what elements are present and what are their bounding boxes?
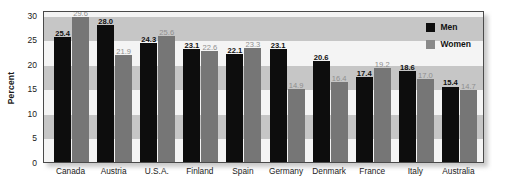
x-axis-label-usa: U.S.A. — [145, 166, 169, 176]
bar-men-spain — [226, 54, 243, 162]
y-axis-tick-label: 20 — [28, 60, 37, 70]
bar-value-label: 21.9 — [116, 47, 131, 56]
bar-women-france — [374, 68, 391, 162]
bar-men-australia — [442, 87, 459, 163]
y-axis-title: Percent — [0, 0, 22, 175]
y-axis-title-text: Percent — [6, 71, 16, 104]
bar-men-finland — [183, 49, 200, 162]
bar-women-spain — [244, 48, 261, 162]
legend-label-women: Women — [440, 39, 471, 49]
legend-swatch-women-icon — [426, 40, 435, 49]
bar-value-label: 25.6 — [159, 28, 174, 37]
legend: Men Women — [426, 22, 471, 49]
plot-area: 25.429.628.021.924.325.623.122.622.123.3… — [43, 11, 484, 163]
y-axis-tick-label: 15 — [28, 84, 37, 94]
bar-value-label: 29.6 — [73, 11, 88, 18]
bar-value-label: 23.1 — [184, 41, 199, 50]
x-axis-label-france: France — [359, 166, 385, 176]
x-axis-label-denmark: Denmark — [312, 166, 346, 176]
y-axis-tick-labels: 051015202530 — [20, 11, 40, 163]
x-axis-label-italy: Italy — [408, 166, 423, 176]
bar-men-germany — [270, 49, 287, 162]
bar-value-label: 17.0 — [418, 71, 433, 80]
bar-value-label: 28.0 — [98, 17, 113, 26]
x-axis-label-australia: Australia — [442, 166, 474, 176]
bar-value-label: 14.7 — [461, 82, 476, 91]
x-axis-label-austria: Austria — [101, 166, 127, 176]
bar-value-label: 22.6 — [202, 43, 217, 52]
bar-women-australia — [460, 90, 477, 162]
bar-value-label: 19.2 — [375, 60, 390, 69]
x-axis-label-germany: Germany — [269, 166, 303, 176]
bar-women-italy — [417, 79, 434, 162]
y-axis-tick-label: 30 — [28, 11, 37, 21]
bar-value-label: 20.6 — [314, 53, 329, 62]
y-axis-tick-label: 5 — [32, 133, 37, 143]
x-axis-label-spain: Spain — [232, 166, 253, 176]
legend-swatch-men-icon — [426, 23, 435, 32]
bar-value-label: 14.9 — [289, 81, 304, 90]
bar-value-label: 25.4 — [55, 29, 70, 38]
legend-label-men: Men — [440, 22, 457, 32]
bar-women-austria — [115, 55, 132, 162]
bar-men-italy — [399, 71, 416, 162]
bar-men-canada — [54, 37, 71, 162]
bars-layer: 25.429.628.021.924.325.623.122.622.123.3… — [44, 12, 483, 162]
x-axis-label-canada: Canada — [56, 166, 85, 176]
bar-chart: Percent 051015202530 25.429.628.021.924.… — [0, 0, 508, 194]
bar-men-austria — [97, 25, 114, 162]
bar-value-label: 23.1 — [271, 41, 286, 50]
bar-men-usa — [140, 43, 157, 162]
legend-item-women: Women — [426, 39, 471, 49]
bar-value-label: 24.3 — [141, 35, 156, 44]
bar-women-germany — [288, 89, 305, 162]
x-axis-label-finland: Finland — [186, 166, 213, 176]
y-axis-tick-label: 10 — [28, 109, 37, 119]
bar-value-label: 22.1 — [228, 46, 243, 55]
bar-women-usa — [158, 36, 175, 162]
bar-men-denmark — [313, 61, 330, 162]
x-axis-category-labels: CanadaAustriaU.S.A.FinlandSpainGermanyDe… — [43, 166, 484, 182]
bar-value-label: 18.6 — [400, 63, 415, 72]
bar-women-denmark — [331, 82, 348, 162]
bar-value-label: 15.4 — [443, 78, 458, 87]
bar-value-label: 23.3 — [246, 40, 261, 49]
bar-men-france — [356, 77, 373, 162]
bar-value-label: 17.4 — [357, 69, 372, 78]
bar-women-finland — [201, 51, 218, 162]
bar-value-label: 16.4 — [332, 74, 347, 83]
y-axis-tick-label: 25 — [28, 35, 37, 45]
bar-women-canada — [72, 17, 89, 162]
legend-item-men: Men — [426, 22, 471, 32]
y-axis-tick-label: 0 — [32, 158, 37, 168]
